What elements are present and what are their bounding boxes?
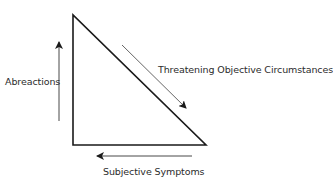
arrow-down-right-icon <box>122 45 186 108</box>
triangle-shape <box>73 15 206 145</box>
label-abreactions: Abreactions <box>5 76 60 87</box>
label-subjective-symptoms: Subjective Symptoms <box>103 166 204 177</box>
label-threatening-objective-circumstances: Threatening Objective Circumstances <box>158 64 333 75</box>
